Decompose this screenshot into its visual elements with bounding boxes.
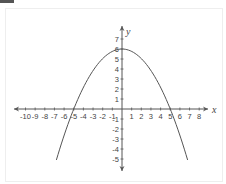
- y-tick-label: -3: [112, 135, 119, 144]
- parabola-plot: xy-10-9-8-7-6-5-4-3-2-112345678-5-4-3-2-…: [0, 0, 226, 184]
- x-tick-label: -4: [80, 112, 87, 121]
- y-tick-label: -4: [112, 145, 119, 154]
- y-tick-label: -1: [112, 115, 119, 124]
- y-tick-label: 2: [115, 85, 119, 94]
- y-tick-label: -2: [112, 125, 119, 134]
- x-tick-label: 6: [178, 112, 182, 121]
- y-tick-label: 4: [115, 65, 119, 74]
- x-tick-label: -2: [99, 112, 106, 121]
- x-tick-label: 2: [139, 112, 143, 121]
- x-tick-label: -6: [61, 112, 68, 121]
- x-tick-label: 3: [149, 112, 153, 121]
- x-tick-label: 7: [187, 112, 191, 121]
- x-tick-label: -9: [32, 112, 39, 121]
- x-tick-label: -7: [51, 112, 58, 121]
- y-tick-label: -5: [112, 155, 119, 164]
- x-axis-label: x: [211, 104, 217, 115]
- x-tick-label: -3: [90, 112, 97, 121]
- x-tick-label: -5: [70, 112, 77, 121]
- y-axis-label: y: [125, 26, 131, 37]
- x-tick-label: -10: [20, 112, 31, 121]
- x-tick-label: 1: [130, 112, 134, 121]
- y-tick-label: 1: [115, 95, 119, 104]
- y-tick-label: 5: [115, 55, 119, 64]
- y-tick-label: 3: [115, 75, 119, 84]
- y-tick-label: 7: [115, 35, 119, 44]
- x-tick-label: 4: [159, 112, 163, 121]
- x-tick-label: 8: [197, 112, 201, 121]
- x-tick-label: -8: [41, 112, 48, 121]
